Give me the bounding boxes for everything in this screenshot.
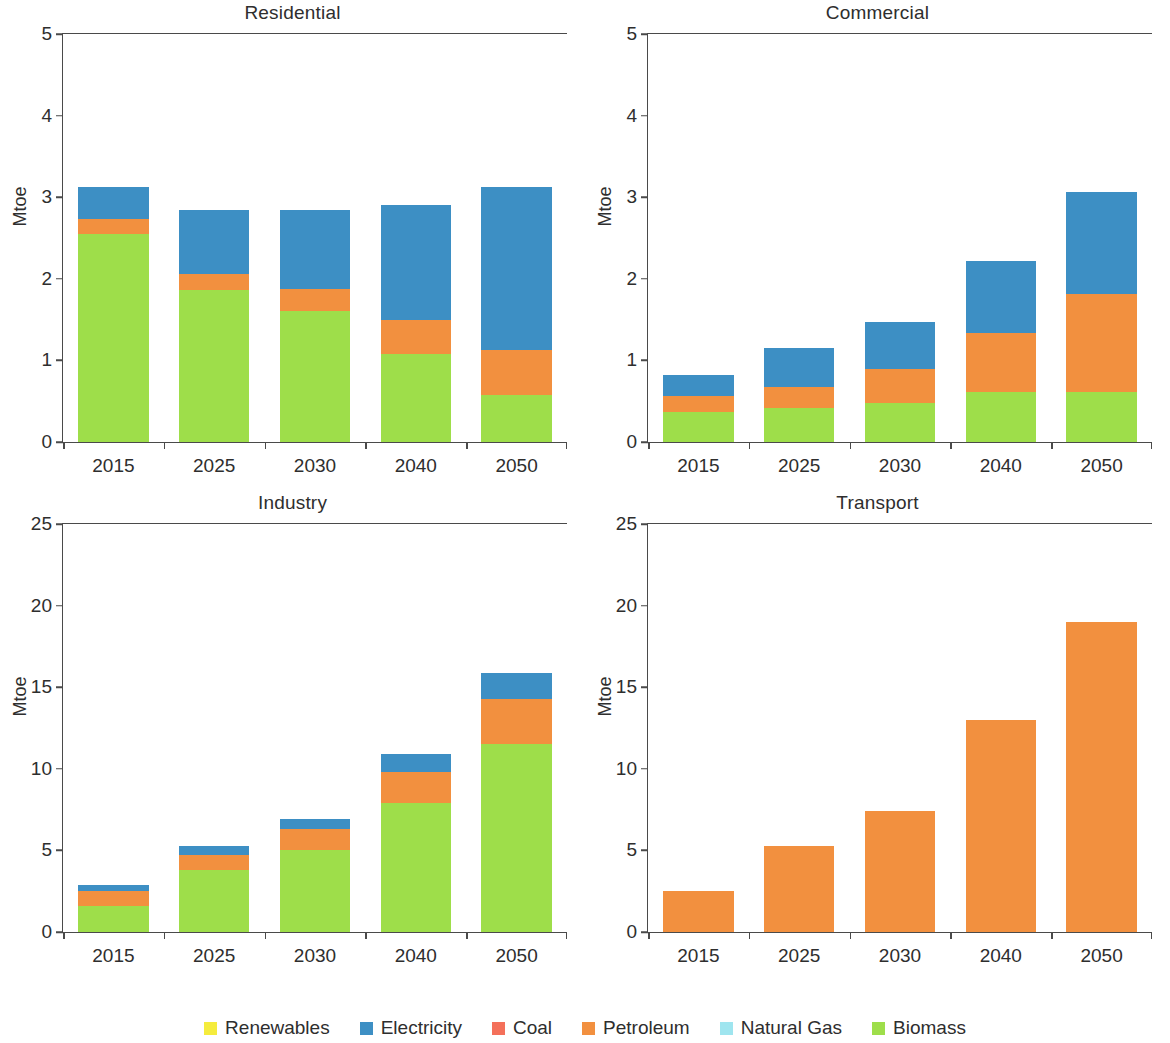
stacked-bar[interactable] [78, 885, 149, 932]
bar-segment-petroleum[interactable] [179, 855, 250, 870]
bar-segment-biomass[interactable] [481, 395, 552, 442]
x-axis-tick-mark [566, 932, 568, 939]
bar-segment-biomass[interactable] [381, 354, 452, 442]
bar-segment-petroleum[interactable] [1066, 294, 1137, 392]
bar-segment-petroleum[interactable] [966, 720, 1037, 932]
bar-segment-electricity[interactable] [280, 819, 351, 829]
stacked-bar[interactable] [381, 754, 452, 932]
bar-segment-biomass[interactable] [481, 744, 552, 932]
y-axis-tick: 0 [626, 431, 648, 453]
chart-panel-residential: Residential Mtoe 01234520152025203020402… [0, 0, 585, 480]
x-axis-tick-label: 2040 [395, 455, 437, 477]
bar-segment-electricity[interactable] [764, 348, 835, 386]
stacked-bar[interactable] [280, 210, 351, 442]
bar-segment-biomass[interactable] [381, 803, 452, 932]
bar-segment-biomass[interactable] [78, 906, 149, 932]
bar-segment-electricity[interactable] [381, 754, 452, 772]
stacked-bar[interactable] [865, 322, 936, 442]
stacked-bar[interactable] [865, 811, 936, 932]
bar-segment-electricity[interactable] [78, 885, 149, 892]
y-axis-tick: 3 [626, 186, 648, 208]
bar-segment-electricity[interactable] [179, 210, 250, 274]
bar-segment-electricity[interactable] [966, 261, 1037, 334]
stacked-bar[interactable] [280, 819, 351, 932]
bar-segment-electricity[interactable] [481, 673, 552, 699]
bar-segment-electricity[interactable] [280, 210, 351, 288]
bar-segment-petroleum[interactable] [78, 891, 149, 906]
y-axis-tick: 0 [626, 921, 648, 943]
bar-segment-biomass[interactable] [966, 392, 1037, 442]
stacked-bar[interactable] [1066, 192, 1137, 443]
stacked-bar[interactable] [764, 348, 835, 442]
stacked-bar[interactable] [966, 261, 1037, 442]
bar-segment-biomass[interactable] [865, 403, 936, 442]
legend-item-renewables[interactable]: Renewables [204, 1017, 330, 1039]
legend-item-coal[interactable]: Coal [492, 1017, 552, 1039]
bar-segment-petroleum[interactable] [179, 274, 250, 290]
legend-item-biomass[interactable]: Biomass [872, 1017, 966, 1039]
x-axis-tick-mark [466, 442, 468, 449]
bar-segment-petroleum[interactable] [280, 829, 351, 850]
stacked-bar[interactable] [78, 187, 149, 442]
legend-label: Biomass [893, 1017, 966, 1039]
bar-segment-electricity[interactable] [78, 187, 149, 219]
y-axis-tick: 3 [41, 186, 63, 208]
stacked-bar[interactable] [764, 846, 835, 932]
stacked-bar[interactable] [663, 891, 734, 932]
bar-segment-biomass[interactable] [78, 234, 149, 442]
bar-segment-biomass[interactable] [663, 412, 734, 442]
bar-segment-electricity[interactable] [1066, 192, 1137, 295]
legend-label: Renewables [225, 1017, 330, 1039]
legend-item-petroleum[interactable]: Petroleum [582, 1017, 690, 1039]
chart-title-commercial: Commercial [585, 2, 1170, 24]
bar-segment-petroleum[interactable] [764, 387, 835, 408]
bar-segment-petroleum[interactable] [1066, 622, 1137, 932]
bar-segment-petroleum[interactable] [381, 320, 452, 354]
bar-segment-petroleum[interactable] [481, 350, 552, 395]
bar-segment-petroleum[interactable] [663, 891, 734, 932]
bar-segment-petroleum[interactable] [280, 289, 351, 311]
legend-swatch-icon [492, 1022, 505, 1035]
plot-area-industry: 051015202520152025203020402050 [62, 523, 567, 933]
bar-segment-petroleum[interactable] [764, 846, 835, 932]
bar-segment-electricity[interactable] [663, 375, 734, 396]
x-axis-tick-label: 2050 [495, 945, 537, 967]
stacked-bar[interactable] [179, 210, 250, 442]
legend-swatch-icon [582, 1022, 595, 1035]
bar-segment-petroleum[interactable] [481, 699, 552, 745]
stacked-bar[interactable] [966, 720, 1037, 932]
stacked-bar[interactable] [481, 673, 552, 932]
bar-segment-petroleum[interactable] [381, 772, 452, 803]
bar-segment-petroleum[interactable] [663, 396, 734, 412]
x-axis-tick-mark [1151, 442, 1153, 449]
y-axis-label-transport: Mtoe [595, 637, 616, 757]
bar-segment-petroleum[interactable] [78, 219, 149, 234]
bar-segment-electricity[interactable] [865, 322, 936, 369]
legend-item-natural-gas[interactable]: Natural Gas [720, 1017, 842, 1039]
stacked-bar[interactable] [481, 187, 552, 442]
bar-segment-electricity[interactable] [179, 846, 250, 856]
stacked-bar[interactable] [1066, 622, 1137, 932]
bar-segment-electricity[interactable] [381, 205, 452, 320]
chart-panel-transport: Transport Mtoe 0510152025201520252030204… [585, 490, 1170, 970]
bar-segment-biomass[interactable] [764, 408, 835, 442]
stacked-bar[interactable] [381, 205, 452, 442]
x-axis-tick-mark [566, 442, 568, 449]
bar-segment-electricity[interactable] [481, 187, 552, 349]
bar-segment-petroleum[interactable] [966, 333, 1037, 392]
bar-segment-biomass[interactable] [179, 290, 250, 442]
stacked-bar[interactable] [663, 375, 734, 442]
y-axis-tick: 5 [626, 23, 648, 45]
bar-segment-petroleum[interactable] [865, 369, 936, 402]
y-axis-tick: 15 [616, 676, 648, 698]
stacked-bar-chart-figure: Residential Mtoe 01234520152025203020402… [0, 0, 1170, 1043]
plot-area-transport: 051015202520152025203020402050 [647, 523, 1152, 933]
bar-segment-biomass[interactable] [1066, 392, 1137, 442]
bar-segment-biomass[interactable] [280, 850, 351, 932]
bar-segment-biomass[interactable] [179, 870, 250, 932]
stacked-bar[interactable] [179, 846, 250, 932]
bar-segment-petroleum[interactable] [865, 811, 936, 932]
bar-segment-biomass[interactable] [280, 311, 351, 442]
legend-item-electricity[interactable]: Electricity [360, 1017, 462, 1039]
x-axis-tick-label: 2040 [980, 945, 1022, 967]
